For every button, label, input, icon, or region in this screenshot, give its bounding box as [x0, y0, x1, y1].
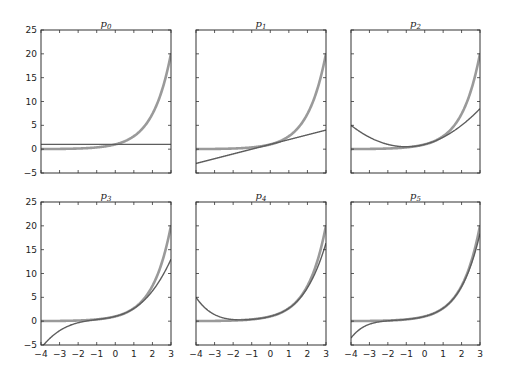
x-tick-label: −4: [189, 349, 203, 359]
y-tick-label: 25: [26, 197, 37, 207]
x-tick-label: −2: [381, 349, 394, 359]
x-tick-label: −1: [90, 349, 103, 359]
taylor-approximation-curve: [41, 259, 171, 348]
x-tick-label: 1: [286, 349, 292, 359]
subplot-p2: p2: [351, 18, 480, 173]
x-tick-label: −4: [34, 349, 48, 359]
y-tick-label: 5: [31, 292, 37, 302]
subplot-p1: p1: [196, 18, 326, 173]
x-tick-label: −3: [208, 349, 221, 359]
subplot-title: p0: [101, 18, 112, 31]
y-tick-label: 0: [31, 144, 37, 154]
exp-reference-curve: [41, 225, 171, 321]
y-tick-label: 20: [26, 221, 38, 231]
x-tick-label: −1: [400, 349, 413, 359]
y-tick-label: −5: [24, 168, 37, 178]
taylor-polynomial-chart-grid: −50510152025p0p1p2−50510152025−4−3−2−101…: [0, 0, 505, 376]
subplot-title: p3: [101, 190, 112, 203]
x-tick-label: −3: [363, 349, 376, 359]
taylor-approximation-curve: [196, 243, 326, 320]
y-tick-label: 10: [26, 269, 38, 279]
exp-reference-curve: [351, 53, 480, 149]
x-tick-label: 2: [305, 349, 311, 359]
y-tick-label: 15: [26, 245, 37, 255]
x-tick-label: 3: [168, 349, 174, 359]
y-tick-label: 10: [26, 97, 38, 107]
axes-frame: [196, 202, 326, 345]
y-tick-label: 0: [31, 316, 37, 326]
x-tick-label: 3: [323, 349, 329, 359]
x-tick-label: −1: [245, 349, 258, 359]
y-tick-label: 15: [26, 73, 37, 83]
axes-frame: [41, 30, 171, 173]
x-tick-label: 3: [477, 349, 483, 359]
x-tick-label: −2: [72, 349, 85, 359]
x-tick-label: 2: [150, 349, 156, 359]
axes-frame: [351, 30, 480, 173]
x-tick-label: 0: [112, 349, 118, 359]
subplot-p5: −4−3−2−10123p5: [344, 190, 483, 359]
x-tick-label: −3: [53, 349, 66, 359]
y-tick-label: 20: [26, 49, 38, 59]
subplot-p4: −4−3−2−10123p4: [189, 190, 329, 359]
taylor-approximation-curve: [196, 130, 326, 163]
subplot-title: p1: [256, 18, 267, 31]
exp-reference-curve: [351, 225, 480, 321]
x-tick-label: 1: [440, 349, 446, 359]
y-tick-label: 5: [31, 120, 37, 130]
axes-frame: [41, 202, 171, 345]
subplot-p3: −50510152025−4−3−2−10123p3: [24, 190, 174, 359]
y-tick-label: 25: [26, 25, 37, 35]
x-tick-label: −2: [227, 349, 240, 359]
subplot-title: p4: [256, 190, 267, 203]
exp-reference-curve: [196, 225, 326, 321]
x-tick-label: −4: [344, 349, 358, 359]
x-tick-label: 2: [459, 349, 465, 359]
subplot-title: p2: [410, 18, 421, 31]
exp-reference-curve: [41, 53, 171, 149]
subplot-p0: −50510152025p0: [24, 18, 171, 178]
axes-frame: [196, 30, 326, 173]
x-tick-label: 1: [131, 349, 137, 359]
subplot-title: p5: [410, 190, 421, 203]
x-tick-label: 0: [267, 349, 273, 359]
x-tick-label: 0: [422, 349, 428, 359]
